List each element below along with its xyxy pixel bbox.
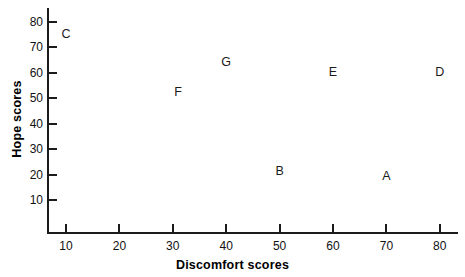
y-axis-tick-label-text: 70 <box>17 41 43 53</box>
scatter-plot-figure: 1020304050607080 1020304050607080 CFGEDB… <box>0 0 465 277</box>
x-axis-tick-label: 20 <box>104 240 134 252</box>
x-axis-tick <box>225 224 227 232</box>
y-axis-tick <box>49 46 57 48</box>
x-axis-tick-label: 60 <box>318 240 348 252</box>
x-axis-tick <box>385 224 387 232</box>
y-axis-tick-label: 10 <box>14 194 43 206</box>
y-axis-tick <box>49 123 57 125</box>
y-axis-tick <box>49 97 57 99</box>
data-point-label-c: C <box>58 28 74 41</box>
x-axis-tick-label: 40 <box>211 240 241 252</box>
data-point-label-g: G <box>218 56 234 69</box>
y-axis-tick <box>49 199 57 201</box>
y-axis-title: Hope scores <box>10 64 24 174</box>
x-axis-tick <box>439 224 441 232</box>
y-axis-tick <box>49 148 57 150</box>
x-axis-tick-label: 70 <box>371 240 401 252</box>
y-axis-tick-label-text: 10 <box>17 194 43 206</box>
x-axis-tick-label: 10 <box>51 240 81 252</box>
y-axis-tick <box>49 174 57 176</box>
x-axis-tick-label: 50 <box>265 240 295 252</box>
y-axis-tick-label-text: 80 <box>17 16 43 28</box>
x-axis-tick <box>279 224 281 232</box>
x-axis-tick <box>65 224 67 232</box>
x-axis-tick-label: 80 <box>425 240 455 252</box>
y-axis-tick-label: 70 <box>14 41 43 53</box>
x-axis-tick <box>172 224 174 232</box>
x-axis-line <box>47 232 458 234</box>
data-point-label-b: B <box>272 165 288 178</box>
x-axis-tick <box>118 224 120 232</box>
data-point-label-e: E <box>325 66 341 79</box>
y-axis-tick-label: 80 <box>14 16 43 28</box>
y-axis-tick <box>49 21 57 23</box>
x-axis-title: Discomfort scores <box>0 258 465 272</box>
data-point-label-a: A <box>378 170 394 183</box>
data-point-label-d: D <box>432 66 448 79</box>
x-axis-tick-label: 30 <box>158 240 188 252</box>
data-point-label-f: F <box>170 86 186 99</box>
y-axis-tick <box>49 72 57 74</box>
x-axis-tick <box>332 224 334 232</box>
